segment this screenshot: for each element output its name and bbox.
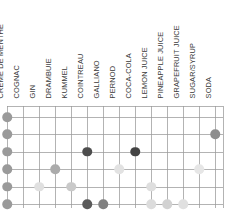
gridline-vertical (87, 106, 88, 208)
column-label-gin: GIN (28, 84, 35, 98)
column-label-coca-cola: COCA-COLA (124, 53, 131, 98)
gridline-vertical (135, 106, 136, 208)
column-label-grapefruit-juice: GRAPEFRUIT JUICE (172, 25, 179, 98)
column-label-soda: SODA (204, 76, 211, 98)
gridline-vertical (183, 106, 184, 208)
data-point-dot (50, 164, 60, 174)
column-label-drambuie: DRAMBUIE (44, 58, 51, 98)
ingredient-matrix-figure: CRÈME DE MENTHECOGNACGINDRAMBUIEKUMMELCO… (0, 0, 241, 222)
data-point-dot (98, 199, 108, 209)
data-point-dot (82, 147, 92, 157)
column-label-kummel: KUMMEL (60, 65, 67, 98)
gridline-vertical (199, 106, 200, 208)
column-label-cr-me-de-menthe: CRÈME DE MENTHE (0, 23, 4, 98)
data-point-dot (210, 130, 220, 140)
column-label-row: CRÈME DE MENTHECOGNACGINDRAMBUIEKUMMELCO… (0, 0, 241, 100)
column-label-cointreau: COINTREAU (76, 53, 83, 98)
data-point-dot (2, 182, 12, 192)
data-point-dot (2, 112, 12, 122)
gridline-vertical (103, 106, 104, 208)
data-point-dot (114, 164, 124, 174)
column-label-pineapple-juice: PINEAPPLE JUICE (156, 31, 163, 98)
data-point-dot (146, 199, 156, 209)
gridline-vertical (23, 106, 24, 208)
column-label-cognac: COGNAC (12, 65, 19, 98)
gridline-vertical (71, 106, 72, 208)
data-point-dot (146, 182, 156, 192)
data-point-dot (162, 199, 172, 209)
gridline-vertical (55, 106, 56, 208)
gridline-horizontal (7, 152, 223, 153)
data-point-dot (2, 147, 12, 157)
data-point-dot (2, 130, 12, 140)
column-label-pernod: PERNOD (108, 65, 115, 98)
column-label-lemon-juice: LEMON JUICE (140, 47, 147, 98)
data-point-dot (2, 199, 12, 209)
column-label-galliano: GALLIANO (92, 60, 99, 98)
data-point-dot (66, 182, 76, 192)
gridline-horizontal (7, 117, 223, 118)
data-point-dot (194, 164, 204, 174)
gridline-horizontal (7, 204, 223, 205)
data-point-dot (178, 199, 188, 209)
column-label-sugar-syrup: SUGAR/SYRUP (188, 43, 195, 98)
gridline-horizontal (7, 106, 223, 107)
gridline-vertical (119, 106, 120, 208)
data-point-dot (82, 199, 92, 209)
gridline-vertical (151, 106, 152, 208)
gridline-horizontal (7, 134, 223, 135)
data-point-dot (2, 164, 12, 174)
data-point-dot (34, 182, 44, 192)
gridline-vertical (167, 106, 168, 208)
data-point-dot (130, 147, 140, 157)
gridline-vertical (39, 106, 40, 208)
scatter-grid-plot (0, 100, 241, 222)
gridline-vertical (223, 106, 224, 208)
gridline-vertical (215, 106, 216, 208)
